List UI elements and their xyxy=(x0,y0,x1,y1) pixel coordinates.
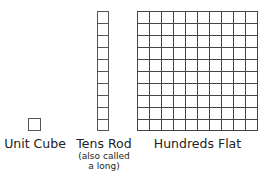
tens-rod xyxy=(97,11,109,131)
hundreds-flat xyxy=(137,11,258,131)
hundreds-flat-label: Hundreds Flat xyxy=(137,136,258,151)
tens-rod-note-2: a long) xyxy=(73,161,135,171)
tens-rod-note-1: (also called xyxy=(73,151,135,161)
unit-cube xyxy=(28,118,41,131)
unit-cube-label: Unit Cube xyxy=(2,136,68,151)
tens-rod-label: Tens Rod xyxy=(73,136,135,151)
